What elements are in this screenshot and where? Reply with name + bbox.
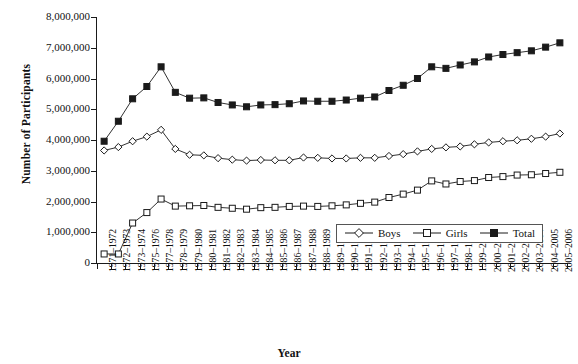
x-tick-mark: [168, 264, 169, 269]
data-point: [428, 145, 435, 152]
x-tick-mark: [140, 264, 141, 269]
data-point: [243, 157, 250, 164]
x-tick-mark: [368, 264, 369, 269]
data-point: [514, 50, 520, 56]
data-point: [471, 59, 477, 65]
x-tick-mark: [154, 264, 155, 269]
data-point: [258, 102, 264, 108]
data-point: [528, 172, 534, 178]
x-tick-label: 2005–2006: [564, 229, 574, 272]
data-point: [543, 171, 549, 177]
x-tick-label: 1979–1980: [194, 229, 204, 272]
y-tick-mark: [91, 109, 97, 110]
x-tick-mark: [567, 264, 568, 269]
x-tick-label: 1982–1983: [236, 229, 246, 272]
data-point: [115, 143, 122, 150]
data-point: [528, 135, 535, 142]
data-point: [186, 151, 193, 158]
data-point: [500, 52, 506, 58]
data-point: [514, 172, 520, 178]
data-point: [229, 102, 235, 108]
y-tick-mark: [91, 48, 97, 49]
data-point: [129, 138, 136, 145]
x-tick-mark: [225, 264, 226, 269]
data-point: [457, 143, 464, 150]
x-tick-label: 1977–1978: [165, 229, 175, 272]
data-point: [557, 40, 563, 46]
data-point: [286, 101, 292, 107]
legend-marker-boys-icon: [344, 227, 374, 239]
x-tick-mark: [553, 264, 554, 269]
legend-label-girls: Girls: [446, 227, 468, 239]
x-tick-label: 1980–1981: [208, 229, 218, 272]
chart-plot-area: [0, 0, 578, 364]
data-point: [343, 202, 349, 208]
data-point: [357, 154, 364, 161]
data-point: [556, 130, 563, 137]
x-tick-mark: [482, 264, 483, 269]
x-tick-mark: [325, 264, 326, 269]
data-point: [372, 94, 378, 100]
x-tick-mark: [453, 264, 454, 269]
x-axis-title: Year: [0, 347, 578, 359]
data-point: [187, 203, 193, 209]
legend-marker-total-icon: [479, 227, 509, 239]
x-tick-label: 1971–1972: [108, 229, 118, 272]
data-point: [343, 155, 350, 162]
data-point: [144, 210, 150, 216]
data-point: [301, 203, 307, 209]
x-tick-mark: [254, 264, 255, 269]
data-point: [315, 203, 321, 209]
x-tick-mark: [282, 264, 283, 269]
data-point: [357, 95, 363, 101]
data-point: [343, 97, 349, 103]
data-point: [215, 204, 221, 210]
data-point: [244, 104, 250, 110]
data-point: [557, 169, 563, 175]
data-point: [257, 156, 264, 163]
data-point: [486, 175, 492, 181]
chart-container: Number of Participants 8,000,0007,000,00…: [0, 0, 578, 364]
data-point: [271, 157, 278, 164]
data-point: [115, 118, 121, 124]
data-point: [272, 204, 278, 210]
series-total: [101, 40, 563, 144]
data-point: [485, 139, 492, 146]
data-point: [443, 65, 449, 71]
data-point: [371, 154, 378, 161]
data-point: [400, 151, 407, 158]
x-tick-label: 2004–2005: [550, 229, 560, 272]
data-point: [414, 76, 420, 82]
data-point: [471, 178, 477, 184]
data-point: [172, 145, 179, 152]
legend-label-total: Total: [513, 227, 535, 239]
legend-item-girls: Girls: [412, 227, 468, 239]
data-point: [215, 99, 221, 105]
data-point: [500, 174, 506, 180]
data-point: [258, 205, 264, 211]
data-point: [329, 98, 335, 104]
data-point: [328, 155, 335, 162]
x-tick-label: 1983–1984: [251, 229, 261, 272]
data-point: [101, 138, 107, 144]
data-point: [442, 144, 449, 151]
data-point: [457, 62, 463, 68]
data-point: [286, 157, 293, 164]
data-point: [301, 98, 307, 104]
data-point: [372, 199, 378, 205]
x-tick-label: 1975–1976: [151, 229, 161, 272]
data-point: [514, 137, 521, 144]
data-point: [400, 82, 406, 88]
data-point: [157, 126, 164, 133]
data-point: [187, 95, 193, 101]
x-tick-mark: [182, 264, 183, 269]
data-point: [200, 152, 207, 159]
data-point: [400, 191, 406, 197]
x-tick-label: 1973–1974: [137, 229, 147, 272]
data-point: [144, 83, 150, 89]
y-tick-mark: [91, 202, 97, 203]
x-tick-label: 1987–1988: [308, 229, 318, 272]
x-tick-mark: [396, 264, 397, 269]
data-point: [429, 178, 435, 184]
legend-item-boys: Boys: [344, 227, 401, 239]
